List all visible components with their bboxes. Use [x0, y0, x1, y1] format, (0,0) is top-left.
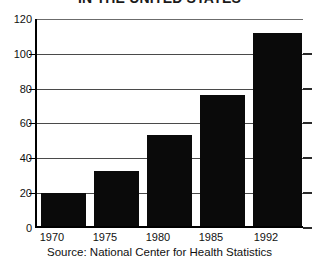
x-axis-label-1980: 1980 — [133, 232, 183, 243]
source-note: Source: National Center for Health Stati… — [0, 246, 319, 258]
y-tick-right-100 — [303, 53, 312, 55]
plot-area — [35, 19, 303, 228]
y-axis-label-100: 100 — [0, 49, 32, 60]
bar-1980 — [147, 135, 192, 226]
y-tick-right-20 — [303, 192, 312, 194]
gridline-120 — [37, 19, 303, 20]
bar-1985 — [200, 95, 245, 226]
x-axis-label-1970: 1970 — [27, 232, 77, 243]
y-axis-label-40: 40 — [0, 153, 32, 164]
y-tick-right-80 — [303, 88, 312, 90]
x-axis-label-1975: 1975 — [80, 232, 130, 243]
bar-1970 — [41, 193, 86, 226]
bar-1992 — [253, 33, 302, 226]
y-axis-label-120: 120 — [0, 14, 32, 25]
chart-title: IN THE UNITED STATES — [0, 0, 319, 6]
y-tick-right-0 — [303, 227, 312, 229]
chart-title-clip: IN THE UNITED STATES — [0, 0, 319, 8]
y-tick-right-60 — [303, 122, 312, 124]
x-axis-label-1985: 1985 — [186, 232, 236, 243]
y-axis-label-80: 80 — [0, 84, 32, 95]
y-axis-label-60: 60 — [0, 118, 32, 129]
y-axis-label-20: 20 — [0, 188, 32, 199]
y-tick-right-40 — [303, 157, 312, 159]
x-axis-label-1992: 1992 — [241, 232, 291, 243]
bar-1975 — [94, 171, 139, 226]
chart-figure: IN THE UNITED STATES 120 100 80 60 40 20… — [0, 0, 319, 263]
